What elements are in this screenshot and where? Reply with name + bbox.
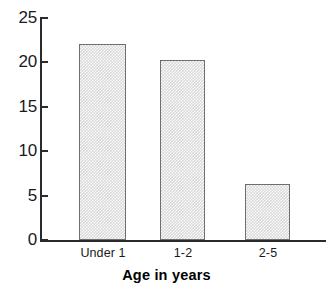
x-tick-label-2-5: 2-5 — [227, 247, 309, 260]
y-tick-mark-5 — [41, 195, 48, 197]
y-tick-mark-20 — [41, 61, 48, 63]
bar-under-1 — [79, 44, 126, 240]
y-tick-label-10: 10 — [3, 142, 37, 159]
bar-2-5 — [245, 184, 290, 240]
x-axis-line — [40, 240, 326, 242]
x-tick-label-1-2: 1-2 — [142, 247, 224, 260]
bar-chart: 25 20 15 10 5 0 Under 1 1-2 2-5 Age in y… — [0, 0, 333, 292]
y-axis-line — [40, 17, 42, 242]
y-tick-label-20: 20 — [3, 53, 37, 70]
y-tick-mark-15 — [41, 106, 48, 108]
bar-1-2 — [160, 60, 205, 240]
x-axis-title: Age in years — [0, 268, 333, 283]
y-tick-label-5: 5 — [3, 187, 37, 204]
y-tick-mark-25 — [41, 17, 48, 19]
y-tick-mark-10 — [41, 150, 48, 152]
y-tick-label-25: 25 — [3, 9, 37, 26]
x-tick-label-under-1: Under 1 — [62, 247, 144, 260]
y-tick-label-15: 15 — [3, 98, 37, 115]
y-tick-label-0: 0 — [3, 231, 37, 248]
y-tick-mark-0 — [41, 239, 48, 241]
